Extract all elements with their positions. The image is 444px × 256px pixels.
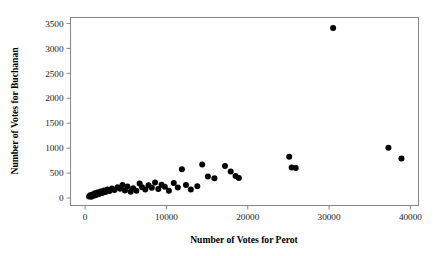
x-tick-label: 20000 bbox=[236, 212, 259, 222]
y-tick-label: 3000 bbox=[45, 44, 64, 54]
x-axis-ticks: 010000200003000040000 bbox=[83, 206, 422, 223]
data-point bbox=[385, 145, 391, 151]
x-tick-label: 10000 bbox=[155, 212, 178, 222]
plot-canvas: 0500100015002000250030003500 01000020000… bbox=[0, 0, 444, 256]
x-tick-label: 40000 bbox=[399, 212, 422, 222]
x-axis-title: Number of Votes for Perot bbox=[190, 234, 298, 245]
data-point bbox=[183, 182, 189, 188]
data-point bbox=[330, 25, 336, 31]
data-point bbox=[228, 169, 234, 175]
data-point bbox=[211, 175, 217, 181]
data-point bbox=[152, 180, 158, 186]
data-point bbox=[175, 185, 181, 191]
data-point bbox=[171, 180, 177, 186]
y-tick-label: 1000 bbox=[45, 143, 64, 153]
y-tick-label: 1500 bbox=[45, 118, 64, 128]
y-axis-ticks: 0500100015002000250030003500 bbox=[45, 19, 70, 204]
plot-frame bbox=[71, 18, 419, 206]
scatter-plot-figure: 0500100015002000250030003500 01000020000… bbox=[0, 0, 444, 256]
data-point bbox=[133, 188, 139, 194]
data-point bbox=[199, 162, 205, 168]
y-tick-label: 500 bbox=[50, 168, 64, 178]
data-point bbox=[398, 156, 404, 162]
data-point-layer bbox=[86, 25, 404, 200]
y-axis-title: Number of Votes for Buchanan bbox=[9, 47, 20, 175]
data-point bbox=[166, 188, 172, 194]
data-point bbox=[179, 166, 185, 172]
data-point bbox=[286, 154, 292, 160]
y-tick-label: 0 bbox=[59, 193, 64, 203]
data-point bbox=[149, 185, 155, 191]
y-tick-label: 2000 bbox=[45, 93, 64, 103]
x-tick-label: 30000 bbox=[318, 212, 341, 222]
y-tick-label: 3500 bbox=[45, 19, 64, 29]
data-point bbox=[188, 187, 194, 193]
data-point bbox=[205, 174, 211, 180]
data-point bbox=[293, 165, 299, 171]
data-point bbox=[124, 184, 130, 190]
data-point bbox=[222, 163, 228, 169]
y-tick-label: 2500 bbox=[45, 69, 64, 79]
data-point bbox=[236, 175, 242, 181]
x-tick-label: 0 bbox=[83, 212, 88, 222]
data-point bbox=[194, 183, 200, 189]
